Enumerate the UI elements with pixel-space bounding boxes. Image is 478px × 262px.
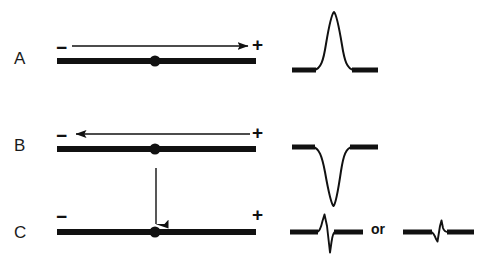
row-c-fiber-group <box>57 168 256 238</box>
trace-a-positive-spike <box>292 12 378 70</box>
electrode-dot-a <box>150 56 161 67</box>
row-b-fiber-group <box>57 134 256 155</box>
trace-c-biphasic-up-down <box>290 215 363 253</box>
trace-b-negative-spike <box>292 147 378 206</box>
trace-c-biphasic-down-up <box>403 221 474 242</box>
electrode-dot-b <box>150 144 161 155</box>
diagram-line-art <box>0 0 478 262</box>
action-potential-diagram: A B C − + − + − + or <box>0 0 478 262</box>
electrode-dot-c <box>150 227 161 238</box>
row-a-fiber-group <box>57 46 256 67</box>
